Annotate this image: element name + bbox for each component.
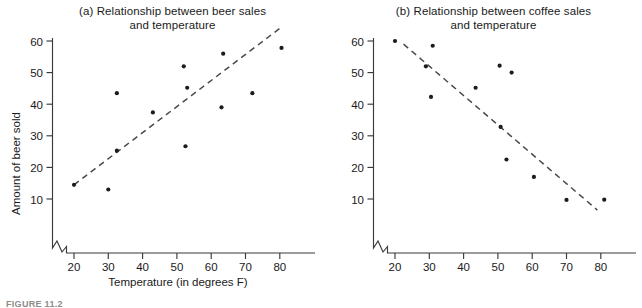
data-point (564, 198, 568, 202)
data-point (221, 52, 225, 56)
x-tick-label-a-80: 80 (273, 261, 286, 273)
x-tick-label-b-30: 30 (423, 261, 436, 273)
x-tick-label-a-50: 50 (171, 261, 184, 273)
y-axis-label-a: Amount of beer sold (10, 112, 22, 215)
scatter-plot-a: 60 50 40 30 20 10 20 30 40 50 60 (0, 0, 321, 292)
figure-container: (a) Relationship between beer sales and … (0, 0, 642, 308)
data-point (474, 86, 478, 90)
y-tick-label-a-30: 30 (30, 130, 43, 142)
data-point (510, 71, 514, 75)
x-tick-label-a-30: 30 (102, 261, 115, 273)
scatter-plot-b: 60 50 40 30 20 10 20 30 40 50 60 (321, 0, 642, 292)
y-tick-label-a-40: 40 (30, 99, 43, 111)
data-point (431, 44, 435, 48)
y-tick-label-b-40: 40 (351, 99, 364, 111)
x-tick-label-b-20: 20 (389, 261, 402, 273)
data-point (250, 91, 254, 95)
x-axis-label-a: Temperature (in degrees F) (48, 276, 308, 288)
trend-line-a (74, 28, 280, 184)
figure-caption: FIGURE 11.2 (6, 299, 63, 308)
data-point (115, 149, 119, 153)
chart-panel-b: (b) Relationship between coffee sales an… (321, 0, 642, 292)
x-tick-label-b-60: 60 (526, 261, 539, 273)
x-axis-a: 20 30 40 50 60 70 80 (53, 241, 316, 273)
x-tick-label-a-20: 20 (68, 261, 81, 273)
data-point (602, 198, 606, 202)
data-point (504, 157, 508, 161)
y-tick-label-b-10: 10 (351, 194, 364, 206)
y-tick-label-b-60: 60 (351, 36, 364, 48)
data-point (532, 175, 536, 179)
y-axis-a: 60 50 40 30 20 10 (30, 36, 52, 244)
y-tick-label-b-20: 20 (351, 162, 364, 174)
data-point-group-b (393, 39, 606, 202)
y-axis-b: 60 50 40 30 20 10 (351, 36, 373, 244)
y-tick-label-a-60: 60 (30, 36, 43, 48)
x-axis-b: 20 30 40 50 60 70 80 (374, 241, 637, 273)
data-point (279, 46, 283, 50)
data-point (72, 183, 76, 187)
data-point (106, 187, 110, 191)
data-point (499, 125, 503, 129)
x-tick-label-b-50: 50 (492, 261, 505, 273)
trend-line-segment (74, 28, 280, 184)
data-point (183, 144, 187, 148)
y-tick-label-a-20: 20 (30, 162, 43, 174)
data-point (151, 110, 155, 114)
data-point (393, 39, 397, 43)
x-tick-label-b-40: 40 (457, 261, 470, 273)
data-point (185, 86, 189, 90)
y-tick-label-a-10: 10 (30, 194, 43, 206)
data-point (429, 95, 433, 99)
chart-panel-a: (a) Relationship between beer sales and … (0, 0, 321, 292)
data-point (498, 64, 502, 68)
x-tick-label-b-70: 70 (560, 261, 573, 273)
data-point (182, 64, 186, 68)
y-tick-label-a-50: 50 (30, 67, 43, 79)
x-tick-label-a-70: 70 (239, 261, 252, 273)
data-point (115, 91, 119, 95)
y-tick-label-b-50: 50 (351, 67, 364, 79)
x-tick-label-b-80: 80 (594, 261, 607, 273)
data-point (219, 105, 223, 109)
x-tick-label-a-60: 60 (205, 261, 218, 273)
data-point (424, 64, 428, 68)
data-point-group-a (72, 46, 284, 192)
x-tick-label-a-40: 40 (136, 261, 149, 273)
y-tick-label-b-30: 30 (351, 130, 364, 142)
